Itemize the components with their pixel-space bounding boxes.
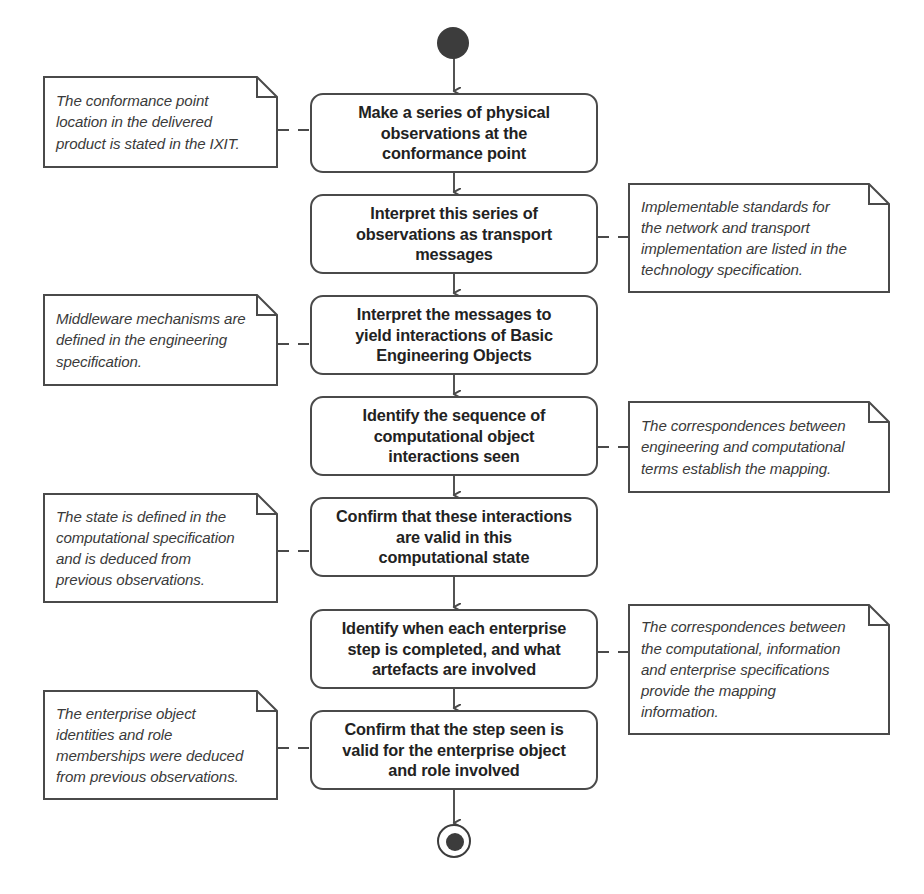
- action-node-1[interactable]: Make a series of physical observations a…: [310, 93, 598, 173]
- action-node-6-label: Identify when each enterprise step is co…: [342, 618, 567, 680]
- note-2[interactable]: Implementable standards for the network …: [628, 183, 890, 293]
- note-4[interactable]: The correspondences between engineering …: [628, 401, 890, 493]
- activity-diagram: Make a series of physical observations a…: [0, 0, 924, 894]
- note-5-text: The state is defined in the computationa…: [43, 493, 278, 603]
- note-1-text: The conformance point location in the de…: [43, 76, 278, 168]
- action-node-3[interactable]: Interpret the messages to yield interact…: [310, 295, 598, 375]
- action-node-5[interactable]: Confirm that these interactions are vali…: [310, 497, 598, 577]
- action-node-2[interactable]: Interpret this series of observations as…: [310, 194, 598, 274]
- note-3-text: Middleware mechanisms are defined in the…: [43, 294, 278, 386]
- note-4-text: The correspondences between engineering …: [628, 401, 890, 493]
- final-node: [437, 824, 471, 858]
- action-node-4-label: Identify the sequence of computational o…: [363, 405, 546, 467]
- initial-node: [437, 27, 469, 59]
- action-node-7-label: Confirm that the step seen is valid for …: [342, 719, 565, 781]
- final-node-core: [446, 833, 464, 851]
- note-2-text: Implementable standards for the network …: [628, 183, 890, 293]
- action-node-7[interactable]: Confirm that the step seen is valid for …: [310, 710, 598, 790]
- action-node-5-label: Confirm that these interactions are vali…: [336, 506, 572, 568]
- action-node-6[interactable]: Identify when each enterprise step is co…: [310, 609, 598, 689]
- note-6-text: The correspondences between the computat…: [628, 604, 890, 735]
- note-7[interactable]: The enterprise object identities and rol…: [43, 690, 278, 800]
- action-node-1-label: Make a series of physical observations a…: [358, 102, 550, 164]
- note-6[interactable]: The correspondences between the computat…: [628, 604, 890, 735]
- action-node-2-label: Interpret this series of observations as…: [356, 203, 552, 265]
- action-node-4[interactable]: Identify the sequence of computational o…: [310, 396, 598, 476]
- note-1[interactable]: The conformance point location in the de…: [43, 76, 278, 168]
- action-node-3-label: Interpret the messages to yield interact…: [355, 304, 553, 366]
- note-7-text: The enterprise object identities and rol…: [43, 690, 278, 800]
- note-5[interactable]: The state is defined in the computationa…: [43, 493, 278, 603]
- note-3[interactable]: Middleware mechanisms are defined in the…: [43, 294, 278, 386]
